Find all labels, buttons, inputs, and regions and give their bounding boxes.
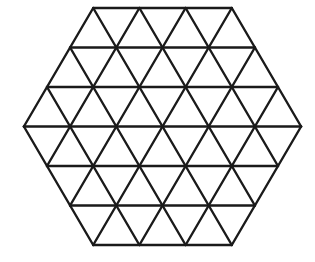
- diagonal-line-up: [70, 8, 186, 206]
- diagonal-line-down: [139, 8, 255, 206]
- diagonal-line-down: [70, 48, 186, 246]
- grid-lines: [24, 8, 301, 245]
- diagonal-line-up: [139, 48, 255, 246]
- hexagonal-triangle-grid: [0, 0, 315, 262]
